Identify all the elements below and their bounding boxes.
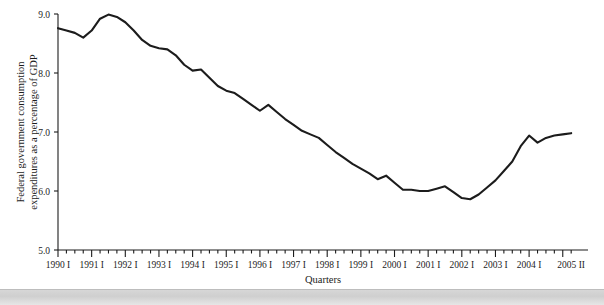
data-series-line <box>58 15 571 200</box>
x-axis-tick-label: 2002 I <box>450 260 475 270</box>
x-axis-tick-label: 1991 I <box>79 260 104 270</box>
y-axis-title: Federal government consumption expenditu… <box>15 54 39 210</box>
x-axis-tick-label: 1994 I <box>180 260 205 270</box>
y-axis-tick-label: 5.0 <box>38 246 50 256</box>
x-axis-tick-label: 1998 I <box>315 260 340 270</box>
y-axis-tick-label: 8.0 <box>38 69 50 79</box>
x-axis-tick-label: 2000 I <box>382 260 407 270</box>
y-axis-tick-label: 6.0 <box>38 187 50 197</box>
y-axis-title-line1: Federal government consumption <box>15 61 26 203</box>
x-axis-tick-label: 1997 I <box>281 260 306 270</box>
x-axis-tick-label: 2005 II <box>557 260 585 270</box>
chart-figure: Federal government consumption expenditu… <box>0 0 604 305</box>
x-axis-tick-label: 1996 I <box>248 260 273 270</box>
x-axis-tick-label: 1999 I <box>349 260 374 270</box>
line-chart: Federal government consumption expenditu… <box>0 0 604 289</box>
x-axis-tick-label: 2004 I <box>517 260 542 270</box>
y-axis-ticks: 5.06.07.08.09.0 <box>38 10 58 256</box>
y-axis-tick-label: 9.0 <box>38 10 50 20</box>
x-axis-ticks <box>58 250 571 257</box>
page-scan-band <box>0 289 604 305</box>
y-axis-tick-label: 7.0 <box>38 128 50 138</box>
x-axis-tick-label: 2001 I <box>416 260 441 270</box>
x-axis-title: Quarters <box>305 274 341 285</box>
x-axis-tick-label: 1990 I <box>46 260 71 270</box>
x-axis-tick-label: 2003 I <box>483 260 508 270</box>
x-axis-tick-label: 1995 I <box>214 260 239 270</box>
x-axis-tick-label: 1993 I <box>147 260 172 270</box>
x-axis-tick-label: 1992 I <box>113 260 138 270</box>
page-scan-edge <box>0 289 604 290</box>
x-axis-tick-labels: 1990 I1991 I1992 I1993 I1994 I1995 I1996… <box>46 260 585 270</box>
